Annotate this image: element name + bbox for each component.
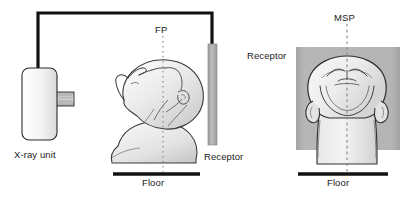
cranium-outline <box>123 60 204 129</box>
receptor-label-right: Receptor <box>247 51 286 61</box>
support-arm <box>38 13 212 69</box>
mid-sagittal-plane-label: MSP <box>334 13 355 23</box>
collimator-cone <box>57 92 75 106</box>
receptor-cassette-lateral <box>208 44 217 145</box>
frankfort-plane-label: FP <box>155 25 167 35</box>
diagram-canvas <box>0 0 411 208</box>
shoulder-outline <box>111 122 197 164</box>
floor-label-right: Floor <box>327 178 349 188</box>
right-panel-group <box>296 24 400 174</box>
radiographic-positioning-figure: X-ray unit Receptor Floor FP Receptor MS… <box>0 0 411 208</box>
floor-label-left: Floor <box>142 178 164 188</box>
xray-unit-label: X-ray unit <box>14 150 56 160</box>
receptor-label-left: Receptor <box>204 152 243 162</box>
xray-tube-head <box>22 68 57 140</box>
